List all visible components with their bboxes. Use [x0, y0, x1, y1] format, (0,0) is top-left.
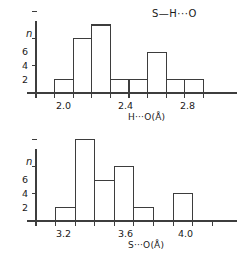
histogram-panel-bottom: n 6 4 2 3.2 3.6 4.0 S···O(Å) — [0, 128, 240, 256]
histogram-panel-top: S—H···O n 6 4 2 2.0 2.4 2.8 H···O(Å) — [0, 0, 240, 128]
panel-top-plot — [0, 0, 240, 128]
panel-bottom-plot — [0, 128, 240, 256]
